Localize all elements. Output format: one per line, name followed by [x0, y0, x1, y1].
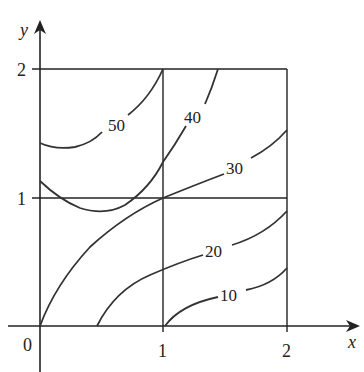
contour-40 — [205, 69, 218, 104]
contour-10 — [246, 268, 287, 290]
contour-label-50: 50 — [108, 116, 125, 135]
contour-50 — [40, 132, 102, 148]
origin-label: 0 — [23, 335, 32, 355]
contour-30 — [251, 130, 287, 158]
contour-label-30: 30 — [226, 159, 243, 178]
x-tick-2: 2 — [282, 341, 291, 361]
y-axis-label: y — [18, 20, 28, 40]
contour-50 — [128, 69, 163, 115]
contour-10 — [165, 297, 218, 326]
contour-diagram: 50 40 30 20 10 2 1 0 1 2 x y — [0, 0, 364, 372]
contour-20 — [232, 211, 287, 245]
x-tick-1: 1 — [158, 341, 167, 361]
contour-label-10: 10 — [220, 286, 237, 305]
y-tick-1: 1 — [17, 189, 26, 209]
x-axis-label: x — [347, 332, 356, 352]
y-tick-2: 2 — [17, 60, 26, 80]
contour-label-40: 40 — [184, 108, 201, 127]
contour-label-20: 20 — [205, 242, 222, 261]
contour-20 — [97, 255, 203, 326]
